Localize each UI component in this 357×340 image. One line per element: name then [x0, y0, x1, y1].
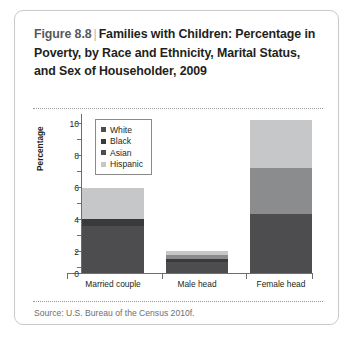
y-tick-label-2: 2: [57, 247, 79, 257]
x-label-married-couple: Married couple: [68, 279, 158, 289]
figure-card: Figure 8.8|Families with Children: Perce…: [14, 10, 339, 325]
legend-label-hispanic: Hispanic: [110, 159, 143, 169]
y-tick-label-6: 6: [57, 183, 79, 193]
legend-label-white: White: [110, 125, 132, 135]
chart-plot-area: Percentage 10 8 6 4 2 0: [15, 11, 340, 301]
chart-legend: White Black Asian Hispanic: [95, 119, 152, 175]
bar-segment-hispanic: [250, 120, 312, 168]
legend-item-white: White: [101, 124, 143, 136]
bar-segment-asian: [250, 168, 312, 214]
y-tick-major-8: [75, 155, 82, 156]
bar-segment-white: [250, 214, 312, 273]
legend-label-black: Black: [110, 136, 131, 146]
legend-item-asian: Asian: [101, 147, 143, 159]
y-tick-major-4: [75, 219, 82, 220]
bar-female-head: [250, 120, 312, 273]
bar-segment-hispanic: [82, 188, 144, 219]
y-tick-minor-9: [77, 139, 82, 140]
legend-item-hispanic: Hispanic: [101, 159, 143, 171]
y-tick-label-8: 8: [57, 151, 79, 161]
y-tick-major-10: [75, 123, 82, 124]
x-label-female-head: Female head: [236, 279, 326, 289]
legend-label-asian: Asian: [110, 148, 132, 158]
bar-segment-white: [82, 226, 144, 273]
source-divider: [33, 301, 323, 302]
legend-swatch-hispanic: [101, 162, 106, 167]
y-tick-label-4: 4: [57, 215, 79, 225]
legend-item-black: Black: [101, 136, 143, 148]
legend-swatch-black: [101, 139, 106, 144]
legend-swatch-white: [101, 127, 106, 132]
y-tick-label-0: 0: [57, 269, 79, 279]
y-axis-label: Percentage: [35, 126, 45, 171]
y-tick-major-6: [75, 187, 82, 188]
bar-segment-black: [82, 219, 144, 226]
bar-segment-white: [166, 262, 228, 273]
y-tick-label-10: 10: [57, 119, 79, 129]
legend-swatch-asian: [101, 150, 106, 155]
y-tick-major-2: [75, 251, 82, 252]
y-tick-minor-7: [77, 171, 82, 172]
figure-source: Source: U.S. Bureau of the Census 2010f.: [34, 308, 324, 318]
bar-male-head: [166, 251, 228, 273]
x-label-male-head: Male head: [152, 279, 242, 289]
bar-married-couple: [82, 188, 144, 273]
x-axis-line: [67, 273, 313, 274]
